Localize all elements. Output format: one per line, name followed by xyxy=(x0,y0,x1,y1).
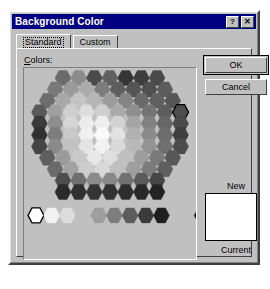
tab-strip: Standard Custom xyxy=(16,34,118,49)
color-swatch[interactable] xyxy=(106,208,122,223)
color-swatch[interactable] xyxy=(59,208,75,223)
color-swatch[interactable] xyxy=(133,185,149,200)
cancel-button-label: Cancel xyxy=(222,83,250,92)
ok-button-face: OK xyxy=(205,57,267,73)
tab-custom[interactable]: Custom xyxy=(73,35,118,49)
color-swatch-selected[interactable] xyxy=(28,208,44,223)
colors-label-rest: olors: xyxy=(31,55,53,65)
cancel-button[interactable]: Cancel xyxy=(205,79,267,95)
color-swatch[interactable] xyxy=(91,208,107,223)
title-bar: Background Color ? ✕ xyxy=(12,14,256,29)
color-swatch[interactable] xyxy=(122,208,138,223)
color-swatch[interactable] xyxy=(44,208,60,223)
window-title: Background Color xyxy=(12,14,104,29)
color-honeycomb-panel[interactable] xyxy=(23,67,197,260)
background-color-dialog: Background Color ? ✕ Standard Custom Col… xyxy=(8,10,260,265)
color-swatch[interactable] xyxy=(75,208,91,223)
color-swatch[interactable] xyxy=(55,185,71,200)
color-honeycomb-grid[interactable] xyxy=(24,68,196,259)
color-swatch[interactable] xyxy=(102,185,118,200)
color-swatch[interactable] xyxy=(86,185,102,200)
new-color-label: New xyxy=(205,181,267,191)
ok-button-label: OK xyxy=(229,61,242,70)
color-preview-box xyxy=(205,193,257,241)
title-bar-buttons: ? ✕ xyxy=(226,16,256,28)
screen: Background Color ? ✕ Standard Custom Col… xyxy=(0,0,270,289)
color-swatch[interactable] xyxy=(149,185,165,200)
color-swatch[interactable] xyxy=(138,208,154,223)
tab-standard-label: Standard xyxy=(23,37,64,48)
colors-label: Colors: xyxy=(24,55,53,65)
help-icon[interactable]: ? xyxy=(226,16,239,28)
standard-tab-page: Colors: OK Cancel New Current xyxy=(16,48,252,257)
tab-custom-label: Custom xyxy=(80,38,111,47)
color-swatch[interactable] xyxy=(194,208,196,223)
current-color-label: Current xyxy=(205,245,267,255)
color-swatch[interactable] xyxy=(118,185,134,200)
ok-button[interactable]: OK xyxy=(203,55,269,75)
color-swatch[interactable] xyxy=(71,185,87,200)
close-icon[interactable]: ✕ xyxy=(241,16,254,28)
color-swatch[interactable] xyxy=(153,208,169,223)
